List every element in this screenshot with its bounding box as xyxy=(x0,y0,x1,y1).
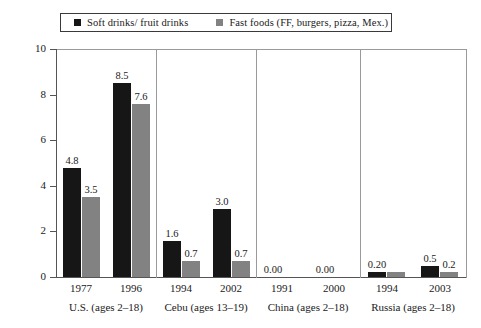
x-tick-label: 1994 xyxy=(359,282,415,294)
plot-top-border xyxy=(56,49,467,50)
bar-soft-drinks xyxy=(113,83,131,277)
y-tick-mark xyxy=(50,49,56,50)
bar-value-label: 4.8 xyxy=(55,155,89,166)
bar-value-label: 0.00 xyxy=(308,264,342,275)
x-tick-label: 1996 xyxy=(103,282,159,294)
x-tick-label: 2000 xyxy=(306,282,362,294)
y-tick-mark xyxy=(50,231,56,232)
y-tick-label: 2 xyxy=(22,225,46,236)
chart-legend: Soft drinks/ fruit drinks Fast foods (FF… xyxy=(60,13,392,32)
bar-fast-foods xyxy=(387,272,405,277)
y-tick-mark xyxy=(50,95,56,96)
bar-value-label: 1.6 xyxy=(155,228,189,239)
legend-item-fast-foods: Fast foods (FF, burgers, pizza, Mex.) xyxy=(216,17,388,28)
x-tick-label: 2003 xyxy=(412,282,468,294)
panel-group-label: Russia (ages 2–18) xyxy=(333,301,481,313)
y-tick-mark xyxy=(50,186,56,187)
legend-swatch-light-icon xyxy=(216,19,223,26)
bar-value-label: 0.7 xyxy=(224,248,258,259)
y-tick-label: 4 xyxy=(22,180,46,191)
x-tick-label: 1977 xyxy=(53,282,109,294)
bar-value-label: 8.5 xyxy=(105,70,139,81)
y-tick-label: 0 xyxy=(22,271,46,282)
bar-fast-foods xyxy=(82,197,100,277)
y-tick-mark xyxy=(50,277,56,278)
x-axis-line xyxy=(56,277,467,278)
legend-swatch-dark-icon xyxy=(74,19,81,26)
x-tick-label: 1994 xyxy=(153,282,209,294)
y-tick-mark xyxy=(50,140,56,141)
y-tick-label: 8 xyxy=(22,89,46,100)
bar-value-label: 3.5 xyxy=(74,184,108,195)
y-tick-label: 10 xyxy=(22,43,46,54)
x-tick-label: 1991 xyxy=(254,282,310,294)
bar-value-label: 0.00 xyxy=(256,264,290,275)
bar-fast-foods xyxy=(440,272,458,277)
bar-value-label: 3.0 xyxy=(205,196,239,207)
legend-item-soft-drinks: Soft drinks/ fruit drinks xyxy=(74,17,188,28)
panel-divider xyxy=(156,49,157,278)
bar-fast-foods xyxy=(132,104,150,277)
legend-label-fast-foods: Fast foods (FF, burgers, pizza, Mex.) xyxy=(229,17,388,28)
plot-right-border xyxy=(466,49,467,278)
bar-value-label: 0.2 xyxy=(432,259,466,270)
bar-soft-drinks xyxy=(163,241,181,277)
bar-fast-foods xyxy=(232,261,250,277)
panel-divider xyxy=(360,49,361,278)
panel-divider xyxy=(256,49,257,278)
bar-value-label: 7.6 xyxy=(124,91,158,102)
bar-chart: Soft drinks/ fruit drinks Fast foods (FF… xyxy=(0,0,481,328)
y-tick-label: 6 xyxy=(22,134,46,145)
bar-value-label: 0.20 xyxy=(360,259,394,270)
bar-soft-drinks xyxy=(368,272,386,277)
x-tick-label: 2002 xyxy=(203,282,259,294)
bar-soft-drinks xyxy=(213,209,231,277)
legend-label-soft-drinks: Soft drinks/ fruit drinks xyxy=(87,17,188,28)
bar-value-label: 0.7 xyxy=(174,248,208,259)
bar-fast-foods xyxy=(182,261,200,277)
